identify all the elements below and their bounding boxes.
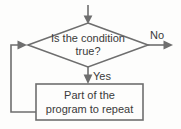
flowchart-diagram: Is the condition true? No Yes Part of th… [0,0,181,129]
decision-text-line1: Is the condition [51,32,125,44]
process-text-line1: Part of the [64,89,115,101]
process-text-line2: program to repeat [46,103,133,115]
false-branch-label: No [150,29,164,41]
true-branch-label: Yes [93,70,111,82]
diagram-canvas: Is the condition true? No Yes Part of th… [0,0,181,129]
true-branch-arrow [84,67,93,84]
false-branch-arrow [148,40,173,49]
entry-arrow [84,5,93,24]
loop-back-arrow [11,40,36,112]
decision-text-line2: true? [75,45,100,57]
